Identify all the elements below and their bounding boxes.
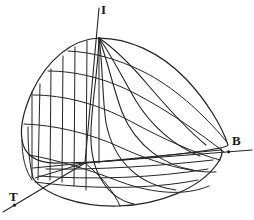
vline-5 [86,41,87,190]
floor-chord-3 [39,169,208,178]
vline-4 [74,47,75,186]
ridge-2 [99,38,200,156]
surface-diagram: I B T [0,0,254,220]
floor-radial-3 [85,163,120,206]
axes-group [3,8,252,212]
diagram-canvas [0,0,254,220]
cross-4 [24,124,216,172]
ridge-3 [99,38,193,170]
mesh-group [22,38,226,204]
surface-outline [21,38,228,163]
axis-label-T: T [9,190,18,203]
axis-tick-B [227,150,230,153]
vline-1 [38,84,40,180]
axis-tick-T [13,204,16,207]
floor-chord-4 [35,180,198,187]
axis-label-B: B [232,134,241,147]
axis-label-I: I [101,3,106,16]
cross-1 [68,51,226,141]
